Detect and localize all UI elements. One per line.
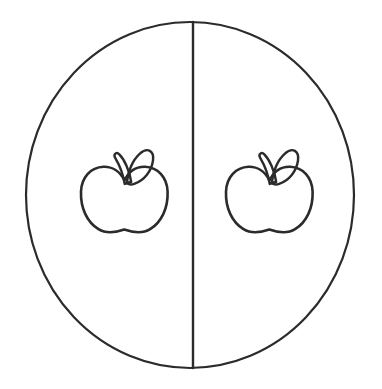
canvas-background <box>0 0 382 389</box>
line-art-canvas <box>0 0 382 389</box>
figure-root <box>0 0 382 389</box>
